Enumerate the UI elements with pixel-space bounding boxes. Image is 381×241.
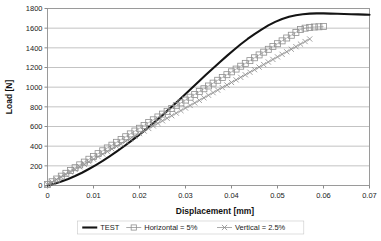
data-point-marker [243,72,248,77]
x-tick-label: 0.04 [224,191,239,200]
data-point-marker [257,65,262,70]
y-tick-label: 1600 [26,24,43,33]
data-point-marker [169,113,174,118]
data-point-marker [261,62,266,67]
y-tick-label: 600 [30,122,43,131]
gridlines [48,28,370,166]
x-tick-label: 0.03 [178,191,193,200]
y-tick-label: 200 [30,162,43,171]
chart-legend: TESTHorizontal = 5%Vertical = 2.5% [77,221,303,234]
y-tick-label: 400 [30,142,43,151]
data-point-marker [160,118,165,123]
data-point-marker [303,39,308,44]
legend-label: TEST [100,223,120,232]
y-tick-label: 0 [38,181,42,190]
data-point-marker [293,44,298,49]
data-point-marker [284,49,289,54]
data-point-marker [238,75,243,80]
data-point-marker [197,98,202,103]
data-point-marker [247,70,252,75]
data-series-layer [45,13,370,187]
x-tick-label: 0 [45,191,49,200]
data-point-marker [234,77,239,82]
y-tick-label: 1800 [26,4,43,13]
y-tick-label: 1400 [26,44,43,53]
data-point-marker [183,105,188,110]
data-point-marker [174,111,179,116]
data-point-marker [206,93,211,98]
x-axis-tick-labels: 00.010.020.030.040.050.060.07 [45,186,376,200]
series-line-x [48,39,310,185]
data-point-marker [275,54,280,59]
data-point-marker [165,116,170,121]
data-point-marker [266,59,271,64]
x-tick-label: 0.07 [362,191,377,200]
load-displacement-chart: 020040060080010001200140016001800 00.010… [0,0,381,241]
data-point-marker [188,103,193,108]
y-tick-label: 800 [30,103,43,112]
data-point-marker [192,100,197,105]
y-tick-label: 1000 [26,83,43,92]
data-point-marker [280,52,285,57]
data-point-marker [229,80,234,85]
data-point-marker [220,85,225,90]
data-point-marker [307,36,312,41]
y-axis-tick-labels: 020040060080010001200140016001800 [26,4,48,190]
x-axis-title: Displacement [mm] [176,206,255,216]
y-tick-label: 1200 [26,63,43,72]
series-line-open-square [48,27,324,185]
y-axis-title: Load [N] [4,80,14,115]
data-point-marker [215,88,220,93]
chart-container: 020040060080010001200140016001800 00.010… [0,0,381,241]
x-tick-label: 0.02 [132,191,147,200]
data-point-marker [201,95,206,100]
data-point-marker [211,90,216,95]
data-point-marker [270,57,275,62]
data-point-marker [289,47,294,52]
data-point-marker [298,42,303,47]
legend-label: Horizontal = 5% [144,223,197,232]
x-tick-label: 0.06 [316,191,331,200]
legend-label: Vertical = 2.5% [235,223,286,232]
data-point-marker [178,108,183,113]
x-tick-label: 0.05 [270,191,285,200]
data-point-marker [155,121,160,126]
x-tick-label: 0.01 [86,191,101,200]
